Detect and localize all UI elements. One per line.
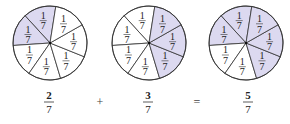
svg-text:1: 1 (257, 13, 262, 24)
fraction-circle-middle: 17171717171717 (112, 6, 186, 80)
slice-label: 17 (142, 56, 149, 78)
svg-text:1: 1 (41, 10, 46, 21)
svg-text:7: 7 (170, 41, 175, 52)
svg-text:7: 7 (71, 41, 76, 52)
svg-text:1: 1 (64, 50, 69, 61)
svg-text:7: 7 (223, 55, 228, 66)
fraction-addition-diagram: 1717171717171717171717171717171717171717… (0, 0, 290, 124)
svg-text:1: 1 (143, 56, 148, 67)
slice-label: 17 (63, 50, 70, 72)
svg-text:1: 1 (163, 50, 168, 61)
center-dot (245, 42, 247, 44)
svg-text:1: 1 (267, 31, 272, 42)
slice-label: 17 (125, 44, 132, 65)
svg-text:7: 7 (160, 24, 165, 35)
svg-text:1: 1 (237, 10, 242, 21)
slice-label: 17 (259, 50, 266, 72)
slice-label: 17 (26, 44, 33, 65)
svg-text:1: 1 (44, 56, 49, 67)
slice-label: 17 (25, 24, 32, 46)
fraction-left-denominator: 7 (46, 103, 52, 115)
svg-text:7: 7 (143, 66, 148, 77)
center-dot (49, 42, 51, 44)
svg-text:7: 7 (64, 61, 69, 72)
fraction-middle: 3 7 (143, 89, 153, 115)
svg-text:1: 1 (140, 10, 145, 21)
fraction-right-denominator: 7 (245, 103, 251, 115)
slice-label: 17 (256, 13, 263, 35)
svg-text:1: 1 (26, 24, 31, 35)
svg-text:7: 7 (257, 24, 262, 35)
fraction-right-numerator: 5 (245, 89, 251, 101)
svg-text:1: 1 (222, 24, 227, 35)
svg-text:1: 1 (170, 31, 175, 42)
slice-label: 17 (266, 31, 273, 53)
svg-text:7: 7 (240, 66, 245, 77)
fraction-middle-numerator: 3 (145, 89, 151, 101)
slice-label: 17 (169, 31, 176, 53)
fraction-circles: 1717171717171717171717171717171717171717… (13, 6, 283, 80)
fraction-left: 2 7 (44, 89, 54, 115)
svg-text:7: 7 (27, 55, 32, 66)
svg-text:7: 7 (44, 66, 49, 77)
slice-label: 17 (222, 44, 229, 65)
fraction-right: 5 7 (243, 89, 253, 115)
slice-label: 17 (159, 13, 166, 35)
fraction-equation: 2 7 + 3 7 = 5 7 (44, 89, 253, 115)
svg-text:7: 7 (237, 20, 242, 31)
svg-text:7: 7 (140, 20, 145, 31)
slice-label: 17 (236, 10, 243, 32)
svg-text:7: 7 (163, 61, 168, 72)
plus-sign: + (97, 95, 104, 109)
svg-text:1: 1 (27, 44, 32, 55)
fraction-left-numerator: 2 (46, 89, 52, 101)
svg-text:7: 7 (267, 41, 272, 52)
slice-label: 17 (43, 56, 50, 78)
svg-text:1: 1 (223, 44, 228, 55)
center-dot (148, 42, 150, 44)
svg-text:1: 1 (240, 56, 245, 67)
slice-label: 17 (70, 31, 77, 53)
fraction-circle-right: 17171717171717 (209, 6, 283, 80)
svg-text:7: 7 (61, 24, 66, 35)
slice-label: 17 (239, 56, 246, 78)
svg-text:1: 1 (71, 31, 76, 42)
slice-label: 17 (124, 24, 131, 46)
slice-label: 17 (221, 24, 228, 46)
svg-text:1: 1 (160, 13, 165, 24)
fraction-circle-left: 17171717171717 (13, 6, 87, 80)
equals-sign: = (194, 95, 201, 109)
svg-text:1: 1 (125, 24, 130, 35)
slice-label: 17 (60, 13, 67, 35)
slice-label: 17 (40, 10, 47, 32)
svg-text:7: 7 (126, 55, 131, 66)
slice-label: 17 (162, 50, 169, 72)
svg-text:7: 7 (260, 61, 265, 72)
slice-label: 17 (139, 10, 146, 32)
fraction-middle-denominator: 7 (145, 103, 151, 115)
svg-text:1: 1 (61, 13, 66, 24)
svg-text:1: 1 (260, 50, 265, 61)
svg-text:1: 1 (126, 44, 131, 55)
svg-text:7: 7 (41, 20, 46, 31)
